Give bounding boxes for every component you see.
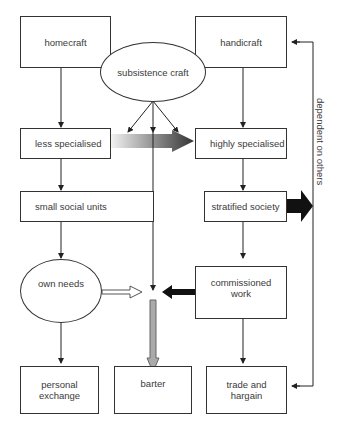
node-commissioned-work: commissioned work xyxy=(195,266,287,319)
node-label: stratified society xyxy=(211,201,279,212)
node-subsistence-craft: subsistence craft xyxy=(100,42,206,102)
side-label-dependent-on-others: dependent on others xyxy=(315,98,326,185)
node-trade-and-bargain: trade and hargain xyxy=(206,366,287,414)
node-highly-specialised: highly specialised xyxy=(195,128,287,159)
node-label: homecraft xyxy=(44,37,86,48)
node-stratified-society: stratified society xyxy=(204,191,287,222)
node-handicraft: handicraft xyxy=(195,16,287,68)
node-label: handicraft xyxy=(220,37,262,48)
node-label: small social units xyxy=(35,201,107,212)
node-label: subsistence craft xyxy=(117,67,188,78)
node-label: commissioned work xyxy=(208,277,274,299)
node-personal-exchange: personal exchange xyxy=(20,366,99,414)
node-label: less specialised xyxy=(35,138,102,149)
node-label: highly specialised xyxy=(210,138,284,149)
node-small-social-units: small social units xyxy=(20,191,154,222)
node-label: personal exchange xyxy=(35,379,84,401)
node-label: barter xyxy=(141,378,166,389)
node-own-needs: own needs xyxy=(20,259,102,323)
node-homecraft: homecraft xyxy=(20,16,111,68)
node-label: trade and hargain xyxy=(221,379,272,401)
node-barter: barter xyxy=(114,366,192,414)
node-less-specialised: less specialised xyxy=(20,128,111,159)
node-label: own needs xyxy=(38,278,84,289)
